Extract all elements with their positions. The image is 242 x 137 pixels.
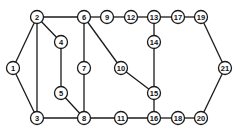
node-10: 10: [115, 62, 128, 75]
node-4: 4: [55, 36, 68, 49]
node-label: 6: [82, 13, 86, 22]
node-label: 3: [35, 114, 39, 123]
node-label: 7: [82, 64, 86, 73]
node-label: 16: [150, 114, 158, 123]
edge-20-21: [201, 68, 225, 118]
node-11: 11: [115, 112, 128, 125]
node-label: 13: [150, 13, 158, 22]
node-9: 9: [101, 11, 114, 24]
node-17: 17: [172, 11, 185, 24]
node-5: 5: [55, 87, 68, 100]
edge-19-21: [201, 17, 225, 68]
node-21: 21: [219, 62, 232, 75]
node-label: 12: [127, 13, 135, 22]
node-label: 1: [11, 64, 15, 73]
node-label: 10: [117, 64, 125, 73]
node-label: 20: [197, 114, 205, 123]
node-20: 20: [195, 112, 208, 125]
node-3: 3: [31, 112, 44, 125]
node-13: 13: [148, 11, 161, 24]
node-19: 19: [195, 11, 208, 24]
node-1: 1: [7, 62, 20, 75]
node-label: 14: [150, 38, 159, 47]
node-label: 17: [174, 13, 182, 22]
node-label: 8: [82, 114, 86, 123]
node-12: 12: [125, 11, 138, 24]
node-7: 7: [78, 62, 91, 75]
node-label: 11: [117, 114, 125, 123]
node-label: 9: [105, 13, 109, 22]
node-label: 15: [150, 89, 158, 98]
node-label: 5: [59, 89, 63, 98]
graph-nodes: 123456789101112131415161718192021: [7, 11, 232, 125]
node-2: 2: [31, 11, 44, 24]
node-8: 8: [78, 112, 91, 125]
node-6: 6: [78, 11, 91, 24]
network-graph: 123456789101112131415161718192021: [0, 0, 242, 137]
edge-1-2: [13, 17, 37, 68]
edge-6-10: [84, 17, 121, 68]
node-18: 18: [172, 112, 185, 125]
node-label: 19: [197, 13, 205, 22]
node-label: 21: [221, 64, 229, 73]
edge-1-3: [13, 68, 37, 118]
node-label: 2: [35, 13, 39, 22]
node-16: 16: [148, 112, 161, 125]
node-label: 18: [174, 114, 182, 123]
node-15: 15: [148, 87, 161, 100]
node-14: 14: [148, 36, 161, 49]
